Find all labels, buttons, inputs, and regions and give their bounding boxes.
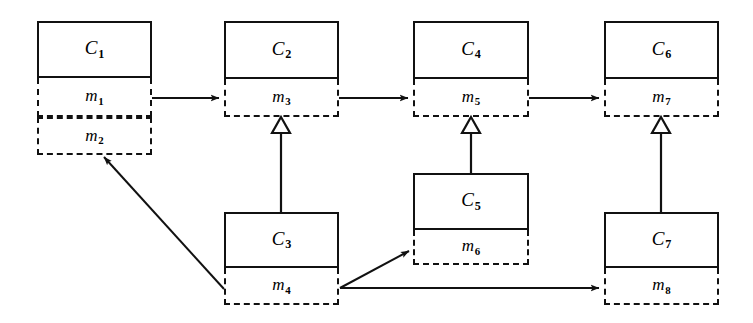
class-name-label-c2: C2 (272, 38, 291, 62)
class-box-c5[interactable]: C5m6 (413, 173, 529, 265)
class-name-label-c4-base: C (461, 38, 474, 59)
class-name-label-c2-subscript: 2 (285, 47, 291, 61)
class-name-label-c1-base: C (85, 37, 98, 58)
method-compartment-m7[interactable]: m7 (604, 79, 719, 117)
class-name-label-c5: C5 (461, 189, 480, 213)
method-label-m5-subscript: 5 (475, 95, 480, 107)
class-name-compartment-c6[interactable]: C6 (604, 21, 719, 79)
class-name-compartment-c1[interactable]: C1 (37, 21, 152, 78)
node-layer: C1m1m2C2m3C4m5C6m7C5m6C3m4C7m8 (0, 0, 753, 323)
class-name-compartment-c2[interactable]: C2 (224, 21, 339, 79)
method-label-m7: m7 (652, 87, 670, 107)
method-label-m8-subscript: 8 (665, 284, 670, 296)
class-name-label-c3: C3 (272, 228, 291, 252)
method-label-m7-subscript: 7 (665, 95, 670, 107)
method-compartment-m2[interactable]: m2 (37, 117, 152, 155)
class-box-c6[interactable]: C6m7 (604, 21, 719, 117)
method-compartment-m5[interactable]: m5 (413, 79, 529, 117)
method-label-m2-base: m (85, 126, 97, 145)
method-label-m1-base: m (85, 86, 97, 105)
class-box-c7[interactable]: C7m8 (604, 212, 719, 305)
method-label-m3-base: m (272, 87, 284, 106)
class-name-label-c7-base: C (652, 228, 665, 249)
method-label-m7-base: m (652, 87, 664, 106)
class-name-compartment-c7[interactable]: C7 (604, 212, 719, 268)
class-name-label-c6-subscript: 6 (665, 47, 671, 61)
class-box-c4[interactable]: C4m5 (413, 21, 529, 117)
method-compartment-m1[interactable]: m1 (37, 78, 152, 117)
class-name-compartment-c4[interactable]: C4 (413, 21, 529, 79)
class-name-label-c3-subscript: 3 (285, 237, 291, 251)
method-label-m4-base: m (272, 275, 284, 294)
method-label-m6-base: m (462, 236, 474, 255)
class-name-label-c1: C1 (85, 37, 104, 61)
class-name-compartment-c5[interactable]: C5 (413, 173, 529, 230)
method-label-m2-subscript: 2 (98, 134, 103, 146)
class-diagram-canvas: C1m1m2C2m3C4m5C6m7C5m6C3m4C7m8 (0, 0, 753, 323)
class-name-label-c2-base: C (272, 38, 285, 59)
class-name-label-c5-subscript: 5 (475, 199, 481, 213)
method-label-m6-subscript: 6 (475, 245, 480, 257)
method-label-m4-subscript: 4 (285, 284, 290, 296)
class-name-label-c3-base: C (272, 228, 285, 249)
method-label-m1: m1 (85, 86, 103, 106)
method-label-m8-base: m (652, 275, 664, 294)
class-name-label-c6: C6 (652, 38, 671, 62)
method-label-m2: m2 (85, 126, 103, 146)
class-box-c1[interactable]: C1m1m2 (37, 21, 152, 155)
method-compartment-m3[interactable]: m3 (224, 79, 339, 117)
method-label-m3: m3 (272, 87, 290, 107)
method-label-m4: m4 (272, 275, 290, 295)
class-name-label-c7: C7 (652, 228, 671, 252)
method-label-m5: m5 (462, 87, 480, 107)
method-compartment-m4[interactable]: m4 (224, 268, 339, 305)
class-name-label-c1-subscript: 1 (98, 47, 104, 61)
method-label-m1-subscript: 1 (98, 95, 103, 107)
class-name-label-c4: C4 (461, 38, 480, 62)
class-name-label-c4-subscript: 4 (475, 47, 481, 61)
method-label-m5-base: m (462, 87, 474, 106)
method-compartment-m6[interactable]: m6 (413, 230, 529, 265)
class-name-compartment-c3[interactable]: C3 (224, 212, 339, 268)
method-compartment-m8[interactable]: m8 (604, 268, 719, 305)
method-label-m3-subscript: 3 (285, 95, 290, 107)
class-name-label-c5-base: C (461, 189, 474, 210)
method-label-m8: m8 (652, 275, 670, 295)
class-box-c3[interactable]: C3m4 (224, 212, 339, 305)
class-name-label-c7-subscript: 7 (665, 237, 671, 251)
class-box-c2[interactable]: C2m3 (224, 21, 339, 117)
class-name-label-c6-base: C (652, 38, 665, 59)
method-label-m6: m6 (462, 236, 480, 256)
